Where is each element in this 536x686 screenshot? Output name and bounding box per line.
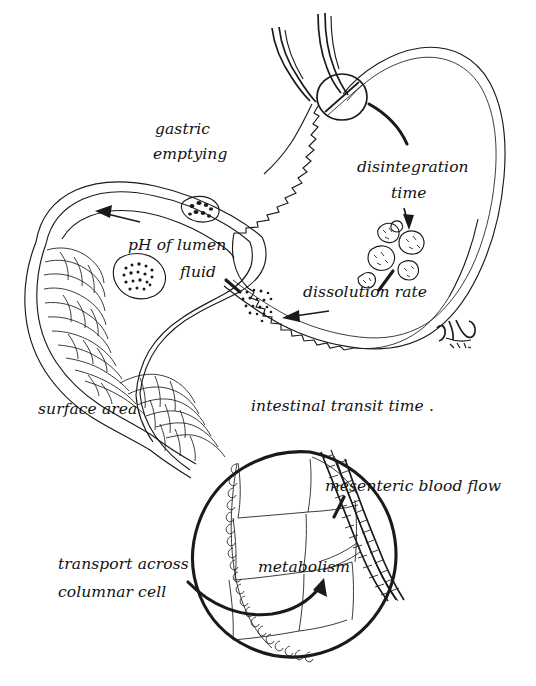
label-ph-of-lumen-fluid-line1: pH of lumen bbox=[128, 236, 226, 254]
tablet-icon bbox=[317, 74, 367, 120]
stomach-outline bbox=[224, 47, 505, 350]
label-ph-of-lumen-fluid-line2: fluid bbox=[179, 263, 216, 281]
label-mesenteric-blood-flow: mesenteric blood flow bbox=[325, 477, 501, 495]
gi-absorption-illustration: gastric emptying disintegration time pH … bbox=[0, 0, 536, 686]
label-metabolism: metabolism bbox=[258, 558, 350, 576]
gastric-emptying-arrow bbox=[95, 205, 140, 222]
label-disintegration-time-line2: time bbox=[391, 184, 426, 202]
disintegration-arrow-curve bbox=[369, 104, 407, 144]
label-gastric-emptying-line1: gastric bbox=[155, 120, 210, 138]
label-dissolution-rate: dissolution rate bbox=[303, 283, 427, 301]
label-gastric-emptying-line2: emptying bbox=[153, 145, 227, 163]
label-transport-across-columnar-cell-line2: columnar cell bbox=[58, 583, 166, 601]
label-intestinal-transit-time: intestinal transit time . bbox=[251, 397, 434, 415]
drug-granules bbox=[358, 221, 424, 288]
label-surface-area: surface area bbox=[38, 400, 137, 418]
transport-arrow bbox=[188, 578, 327, 615]
disintegration-arrowhead bbox=[403, 208, 414, 230]
lumen-fluid-stipple bbox=[123, 262, 154, 290]
bolus-stipple bbox=[188, 201, 213, 218]
artist-signature: J. Low M.D. bbox=[434, 320, 500, 359]
esophagus-group bbox=[272, 13, 348, 102]
label-disintegration-time-line1: disintegration bbox=[357, 158, 469, 176]
duodenum-group bbox=[25, 237, 266, 478]
illustration-canvas: gastric emptying disintegration time pH … bbox=[0, 0, 536, 686]
label-transport-across-columnar-cell-line1: transport across bbox=[58, 555, 189, 573]
